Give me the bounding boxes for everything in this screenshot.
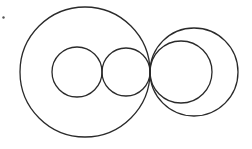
large-left-circle [20, 7, 150, 137]
marker-dot [2, 16, 4, 18]
large-right-circle [150, 28, 238, 116]
small-left-circle-1 [52, 47, 102, 97]
circles-diagram [0, 0, 252, 149]
medium-right-circle [150, 41, 212, 103]
small-left-circle-2 [102, 48, 150, 96]
diagram-canvas [0, 0, 252, 149]
